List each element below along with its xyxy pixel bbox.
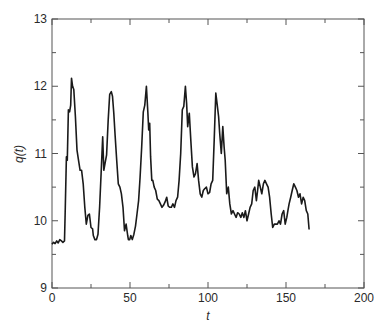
y-axis-label: q(t) <box>12 145 26 163</box>
svg-text:9: 9 <box>40 281 47 295</box>
x-axis-label: t <box>206 309 210 323</box>
svg-text:13: 13 <box>34 12 48 26</box>
svg-text:11: 11 <box>35 147 48 161</box>
svg-text:0: 0 <box>49 291 56 305</box>
svg-text:50: 50 <box>123 291 137 305</box>
axis-ticks <box>52 19 364 288</box>
line-chart: 050100150200910111213 t q(t) <box>0 0 390 331</box>
svg-text:150: 150 <box>276 291 296 305</box>
svg-text:100: 100 <box>198 291 218 305</box>
svg-text:200: 200 <box>354 291 374 305</box>
q-t-series-line <box>52 78 309 244</box>
plot-frame <box>52 19 364 288</box>
svg-text:10: 10 <box>34 214 48 228</box>
tick-labels: 050100150200910111213 <box>34 12 375 305</box>
svg-text:12: 12 <box>34 79 48 93</box>
